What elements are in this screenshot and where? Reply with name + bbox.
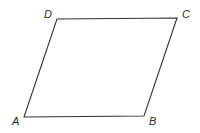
parallelogram-abcd <box>24 18 177 117</box>
vertex-label-a: A <box>11 115 19 127</box>
vertex-label-c: C <box>182 8 190 20</box>
vertex-label-d: D <box>44 8 52 20</box>
vertex-label-b: B <box>149 115 156 127</box>
parallelogram-diagram: A B C D <box>0 0 200 133</box>
